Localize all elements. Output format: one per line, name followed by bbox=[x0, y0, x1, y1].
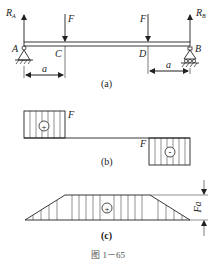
dim-right-label: a bbox=[166, 59, 171, 70]
caption-b: (b) bbox=[101, 156, 113, 168]
figure-caption: 图 1－65 bbox=[91, 250, 125, 260]
point-d-label: D bbox=[138, 48, 147, 59]
support-b-label: B bbox=[195, 43, 201, 54]
reaction-b-label: RB bbox=[195, 7, 206, 19]
shear-left-sign: + bbox=[41, 122, 46, 132]
point-c-label: C bbox=[55, 48, 62, 59]
moment-sign: + bbox=[104, 204, 109, 214]
beam-figure: RA RB F F A B C D a a (a) F F + - (b) + … bbox=[0, 0, 218, 279]
moment-max-label: Fa bbox=[192, 201, 203, 213]
shear-right-label: F bbox=[139, 138, 147, 149]
force-c-label: F bbox=[67, 13, 75, 24]
beam bbox=[24, 42, 190, 46]
reaction-a-label: RA bbox=[5, 7, 16, 19]
shear-left-label: F bbox=[67, 109, 75, 120]
dim-left-label: a bbox=[42, 63, 47, 74]
shear-right-sign: - bbox=[169, 147, 172, 157]
caption-a: (a) bbox=[101, 78, 112, 90]
force-d-label: F bbox=[139, 13, 147, 24]
support-a-label: A bbox=[11, 43, 19, 54]
moment-diagram bbox=[25, 180, 208, 236]
caption-c: (c) bbox=[101, 230, 112, 242]
